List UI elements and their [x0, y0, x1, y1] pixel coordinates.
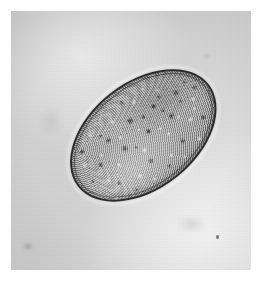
photo-frame: Light micrograph of a single ovoid cell …: [0, 0, 269, 281]
orientation-note: Long axis runs from lower-left to upper-…: [0, 0, 1, 1]
image-title: Light micrograph of a single ovoid cell: [0, 0, 1, 1]
image-description: Grayscale photographic print showing one…: [0, 0, 1, 1]
micrograph-field: [11, 11, 251, 270]
print-vignette: [11, 11, 251, 270]
